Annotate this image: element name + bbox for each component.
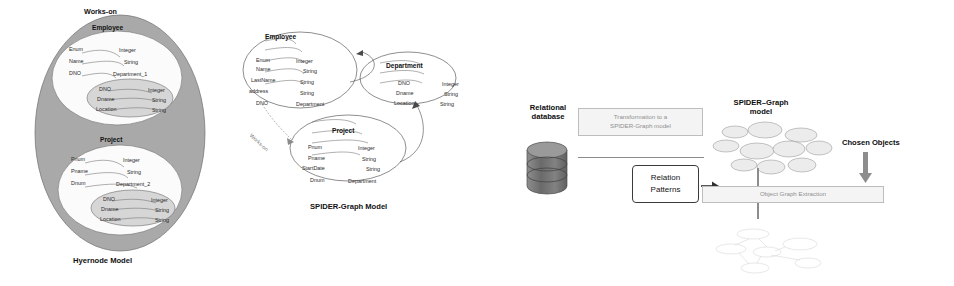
hypernode-project-attr-1-type: String: [127, 170, 141, 175]
output-object-graph-sketch: [705, 222, 855, 282]
spider-employee-attr-3-name: address: [249, 89, 268, 94]
spider-department-attr-0-name: DNO: [398, 81, 410, 86]
spider-project-attr-2-name: StartDate: [302, 166, 325, 171]
hypernode-employee-attr-1-name: Name: [69, 59, 83, 64]
spider-employee-attr-1-name: Name: [256, 67, 270, 72]
hypernode-employee-attr-2-name: DNO: [69, 71, 81, 76]
relational-database-label-line2: database: [532, 112, 565, 121]
relation-patterns-line2: Patterns: [651, 185, 681, 194]
transformation-box[interactable]: Transformation to a SPIDER-Graph model: [578, 108, 703, 136]
hypernode-project-attr-1-name: Pname: [71, 169, 88, 174]
spider-graph-panel-graphics: [230, 0, 490, 286]
spider-department-attr-2-type: String: [440, 102, 454, 107]
hypernode-dept1-attr-0-name: DNO: [99, 87, 111, 92]
works-on-outer-label: Works-on: [84, 8, 117, 15]
spider-project-attr-1-name: Pname: [308, 156, 325, 161]
spider-project-attr-0-type: Integer: [358, 146, 375, 151]
relation-patterns-line1: Relation: [651, 173, 680, 182]
spider-project-attr-3-type: Department: [348, 179, 376, 184]
relational-database-label: Relational database: [512, 103, 584, 122]
spider-employee-attr-2-name: LastName: [251, 78, 276, 83]
transformation-box-line1: Transformation to a: [614, 113, 667, 120]
hypernode-employee-title: Employee: [92, 25, 123, 32]
blob-group: [713, 122, 832, 174]
figure-canvas: Works-on Employee Enum Name DNO Integer …: [0, 0, 954, 286]
hypernode-caption: Hyernode Model: [73, 257, 132, 265]
chosen-objects-label: Chosen Objects: [842, 138, 948, 147]
spider-department-attr-1-name: Dname: [396, 91, 413, 96]
hypernode-employee-attr-0-name: Enum: [69, 47, 83, 52]
spider-employee-attr-3-type: String: [300, 91, 314, 96]
hypernode-dept2-attr-2-type: String: [155, 218, 169, 223]
spider-graph-caption: SPIDER-Graph Model: [310, 203, 387, 211]
object-graph-extraction-box[interactable]: Object Graph Extraction: [702, 186, 884, 203]
hypernode-dept1-attr-0-type: Integer: [148, 88, 165, 93]
spider-project-attr-2-type: String: [366, 167, 380, 172]
hypernode-dept1-attr-2-name: Location: [96, 107, 116, 112]
spider-graph-model-label: SPIDER–Graph model: [713, 98, 809, 117]
hypernode-project-title: Project: [100, 137, 122, 144]
spider-employee-attr-0-type: Integer: [296, 59, 313, 64]
spider-employee-attr-1-type: String: [303, 69, 317, 74]
hypernode-panel-graphics: [0, 0, 250, 286]
spider-department-attr-2-name: Location: [394, 101, 414, 106]
hypernode-employee-attr-0-type: Integer: [119, 48, 136, 53]
transformation-box-line2: SPIDER-Graph model: [610, 122, 671, 129]
hypernode-dept2-attr-0-name: DNO: [103, 197, 115, 202]
hypernode-project-attr-0-type: Integer: [123, 158, 140, 163]
extraction-output-connector: [757, 203, 759, 219]
hypernode-project-attr-2-type: Department_2: [116, 182, 150, 187]
relational-database-label-line1: Relational: [530, 103, 566, 112]
hypernode-dept1-attr-1-name: Dname: [97, 97, 114, 102]
spider-project-title: Project: [332, 128, 354, 135]
spider-department-title: Department: [386, 63, 423, 70]
hypernode-project-attr-2-name: Dnum: [71, 181, 85, 186]
spider-graph-model-line2: model: [750, 107, 772, 116]
spider-department-attr-0-type: Integer: [442, 82, 459, 87]
model-to-extraction-connector: [757, 168, 759, 186]
hypernode-dept1-attr-2-type: String: [152, 108, 166, 113]
spider-employee-title: Employee: [265, 34, 296, 41]
spider-employee-attr-0-name: Enum: [256, 58, 270, 63]
chosen-objects-arrow: [857, 152, 877, 186]
hypernode-dept2-attr-0-type: Integer: [151, 198, 168, 203]
db-cylinder-body: [527, 142, 567, 194]
relation-patterns-box[interactable]: Relation Patterns: [632, 165, 699, 203]
spider-employee-attr-4-name: DNO: [256, 101, 268, 106]
hypernode-project-attr-0-name: Pnum: [71, 157, 85, 162]
spider-project-attr-1-type: String: [362, 157, 376, 162]
hypernode-dept2-attr-1-type: String: [155, 208, 169, 213]
transformation-underline: [578, 157, 704, 158]
spider-project-attr-3-name: Dnum: [310, 178, 324, 183]
spider-employee-attr-4-type: Department: [296, 102, 324, 107]
spider-graph-model-line1: SPIDER–Graph: [734, 98, 789, 107]
hypernode-dept2-attr-2-name: Location: [100, 217, 120, 222]
spider-employee-attr-2-type: String: [300, 80, 314, 85]
hypernode-dept1-attr-1-type: String: [152, 98, 166, 103]
spider-project-attr-0-name: Pnum: [308, 145, 322, 150]
hypernode-employee-attr-1-type: String: [124, 60, 138, 65]
spider-department-attr-1-type: String: [444, 92, 458, 97]
relational-database-cylinder: [515, 140, 635, 230]
hypernode-employee-attr-2-type: Department_1: [113, 72, 147, 77]
spider-graph-blob-cluster: [713, 120, 843, 190]
hypernode-dept2-attr-1-name: Dname: [101, 207, 118, 212]
object-graph-extraction-label: Object Graph Extraction: [760, 190, 826, 199]
